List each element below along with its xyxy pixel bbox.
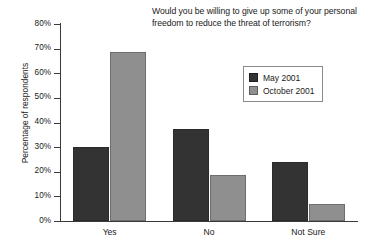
legend-item-may-2001: May 2001 [249,71,315,84]
legend-item-october-2001: October 2001 [249,84,315,97]
y-axis-tick-label: 80% [35,19,51,28]
bar [173,129,209,221]
y-axis-tick-label: 0% [39,216,51,225]
y-axis-title: Percentage of respondents [20,33,30,193]
y-axis-tick-label: 40% [35,117,51,126]
x-axis-category-label: No [204,227,215,237]
bar [210,175,246,221]
y-axis-tick-label: 30% [35,142,51,151]
y-axis-tick-label: 10% [35,191,51,200]
legend-item-label: May 2001 [263,73,300,83]
bar [73,147,109,221]
chart-legend: May 2001 October 2001 [243,66,323,102]
x-axis-category-label: Not Sure [291,227,325,237]
y-axis-tick-label: 20% [35,166,51,175]
legend-swatch-icon [249,73,258,82]
y-axis-tick-label: 50% [35,92,51,101]
bar [309,204,345,221]
y-axis-tick-label: 70% [35,43,51,52]
y-axis-tick-label: 60% [35,68,51,77]
plot-area [60,24,358,221]
legend-item-label: October 2001 [263,86,315,96]
y-axis-tick: 0% [54,221,60,222]
legend-swatch-icon [249,86,258,95]
bar [272,162,308,221]
x-axis-category-label: Yes [103,227,117,237]
bar-chart-figure: Would you be willing to give up some of … [0,0,366,251]
x-axis-line [59,221,358,222]
bar [110,52,146,221]
